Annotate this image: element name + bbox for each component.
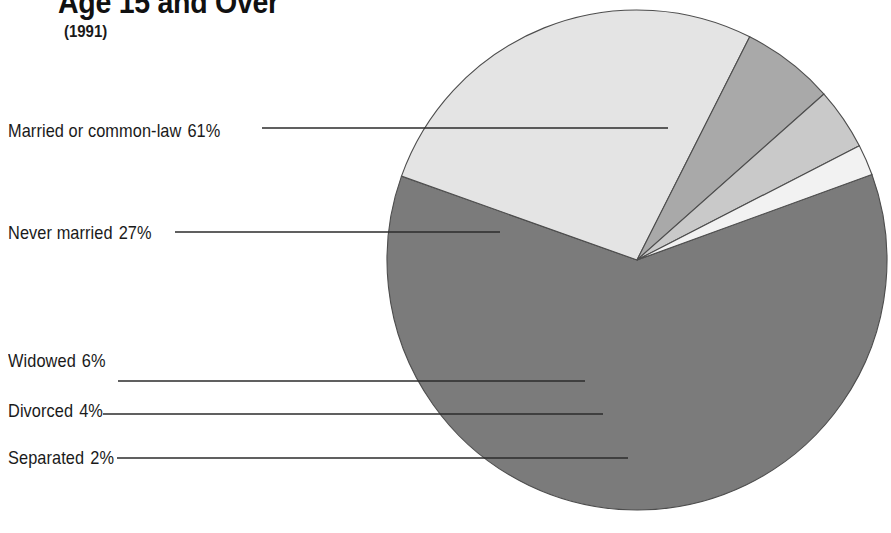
pie-svg xyxy=(0,0,891,533)
pie-slices xyxy=(387,10,887,510)
pie-chart-figure: Age 15 and Over (1991) Married or common… xyxy=(0,0,891,533)
